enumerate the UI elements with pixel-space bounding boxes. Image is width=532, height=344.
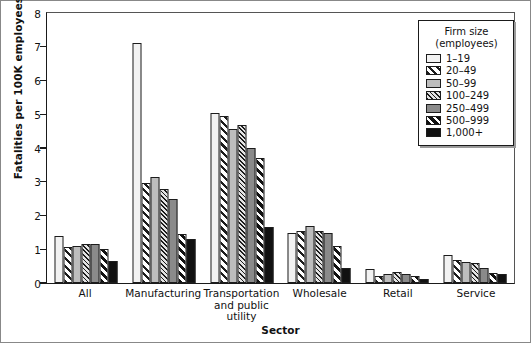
x-tick-label-line: All <box>47 288 123 300</box>
y-tick-label: 3 <box>17 177 41 188</box>
y-tick-mark <box>40 114 47 115</box>
legend-item: 50–99 <box>426 78 507 89</box>
y-tick-mark <box>40 249 47 250</box>
bar <box>90 244 99 283</box>
legend-swatch <box>426 91 441 100</box>
legend-title: Firm size (employees) <box>426 26 507 50</box>
bar <box>333 246 342 283</box>
bar <box>384 274 393 283</box>
x-tick-label-line: Manufacturing <box>125 288 201 300</box>
legend-swatch <box>426 128 441 137</box>
bar <box>444 255 453 283</box>
y-tick-label: 6 <box>17 76 41 87</box>
x-tick-label: Transportationand publicutility <box>202 288 280 323</box>
bar <box>168 199 177 283</box>
bar <box>132 43 141 283</box>
legend: Firm size (employees) 1–1920–4950–99100–… <box>418 20 514 146</box>
x-tick-label-line: Wholesale <box>282 288 358 300</box>
legend-item: 20–49 <box>426 65 507 76</box>
bar <box>186 239 195 283</box>
bar <box>246 148 255 283</box>
legend-swatch <box>426 66 441 75</box>
y-tick-mark <box>40 181 47 182</box>
bar <box>375 276 384 283</box>
x-tick-label-line: Retail <box>360 288 436 300</box>
bar-group-bars <box>288 13 351 283</box>
legend-swatch <box>426 54 441 63</box>
bar <box>63 247 72 283</box>
legend-label: 1,000+ <box>446 127 483 138</box>
bar-group-bars <box>210 13 273 283</box>
bar <box>420 279 429 283</box>
y-tick-label: 2 <box>17 211 41 222</box>
bar-group-bars <box>54 13 117 283</box>
bar <box>237 125 246 283</box>
bar <box>315 231 324 283</box>
x-tick-label: All <box>46 288 124 323</box>
legend-item: 500–999 <box>426 115 507 126</box>
x-axis-title: Sector <box>46 324 515 336</box>
y-axis-title: Fatalities per 100K employees <box>12 0 24 188</box>
y-tick-mark <box>40 80 47 81</box>
bar-group <box>47 13 125 283</box>
legend-label: 1–19 <box>446 53 470 64</box>
bar <box>402 274 411 283</box>
bar <box>498 274 507 283</box>
bar <box>159 189 168 283</box>
x-tick-label-line: Transportation <box>203 288 279 300</box>
bar <box>462 262 471 283</box>
legend-label: 500–999 <box>446 115 489 126</box>
bar <box>150 177 159 283</box>
bar <box>453 260 462 283</box>
chart-figure: Fatalities per 100K employees 012345678 … <box>0 0 532 344</box>
y-tick-label: 8 <box>17 9 41 20</box>
legend-item: 100–249 <box>426 90 507 101</box>
bar <box>288 233 297 283</box>
bar <box>141 183 150 283</box>
legend-swatch <box>426 79 441 88</box>
bar-group <box>280 13 358 283</box>
x-tick-label-line: utility <box>203 311 279 323</box>
bar <box>411 276 420 283</box>
y-tick-label: 0 <box>17 279 41 290</box>
bar-group <box>125 13 203 283</box>
x-tick-label: Retail <box>359 288 437 323</box>
x-tick-label-line: Service <box>438 288 514 300</box>
x-axis-tick-labels: AllManufacturingTransportationand public… <box>46 288 515 323</box>
bar <box>210 113 219 283</box>
bar-group-bars <box>132 13 195 283</box>
bar <box>480 268 489 283</box>
bar <box>99 249 108 283</box>
legend-item: 1,000+ <box>426 127 507 138</box>
bar <box>306 226 315 283</box>
legend-label: 50–99 <box>446 78 476 89</box>
bar <box>81 244 90 283</box>
bar-group <box>203 13 281 283</box>
bar <box>297 231 306 283</box>
bar <box>342 268 351 283</box>
bar <box>54 236 63 283</box>
x-tick-label: Service <box>437 288 515 323</box>
y-tick-label: 4 <box>17 144 41 155</box>
x-tick-label: Manufacturing <box>124 288 202 323</box>
y-tick-mark <box>40 215 47 216</box>
y-tick-label: 7 <box>17 42 41 53</box>
legend-swatch <box>426 104 441 113</box>
y-tick-label: 1 <box>17 245 41 256</box>
y-tick-label: 5 <box>17 110 41 121</box>
bar <box>228 129 237 283</box>
bar <box>177 234 186 283</box>
bar <box>471 263 480 283</box>
legend-swatch <box>426 116 441 125</box>
bar <box>393 272 402 283</box>
legend-label: 250–499 <box>446 103 489 114</box>
bar <box>72 246 81 283</box>
legend-rows: 1–1920–4950–99100–249250–499500–9991,000… <box>426 53 507 138</box>
bar <box>108 261 117 283</box>
legend-item: 250–499 <box>426 103 507 114</box>
legend-title-line2: (employees) <box>435 38 497 49</box>
legend-label: 20–49 <box>446 65 476 76</box>
legend-label: 100–249 <box>446 90 489 101</box>
bar <box>219 116 228 283</box>
y-tick-mark <box>40 147 47 148</box>
